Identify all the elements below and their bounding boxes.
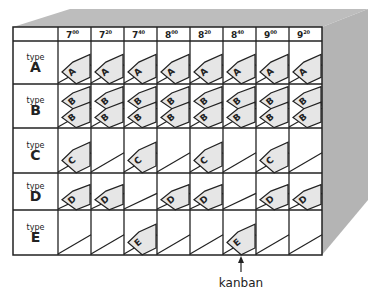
row-label-type: E bbox=[31, 229, 41, 245]
row-label-type: C bbox=[30, 147, 40, 163]
kanban-board-diagram: AAAAAAAABBBBBBBBBBBBBBBBCCCCDDDDDDEE 700… bbox=[0, 0, 375, 292]
row-label-type: A bbox=[30, 59, 41, 75]
kanban-annotation: kanban bbox=[219, 256, 263, 290]
row-label-type: D bbox=[30, 188, 42, 204]
box-top-face bbox=[13, 9, 368, 27]
arrow-up-icon bbox=[238, 256, 244, 263]
box-side-face bbox=[322, 9, 368, 255]
row-label-type: B bbox=[30, 102, 41, 118]
kanban-label: kanban bbox=[219, 276, 263, 290]
